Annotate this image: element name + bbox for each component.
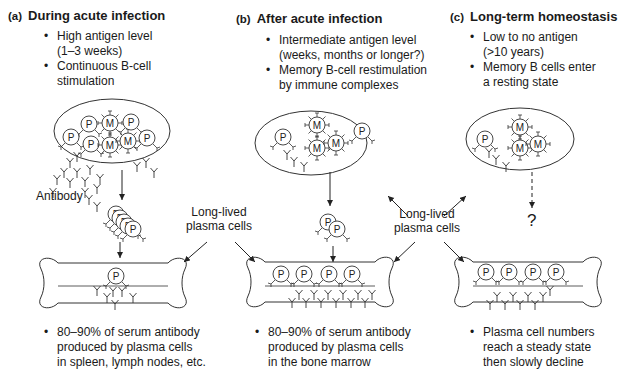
panel-a-footer: 80–90% of serum antibodyproduced by plas… [44,325,206,370]
bullet: Plasma cell numbersreach a steady statet… [470,325,594,370]
antibody-label: Antibody [36,189,83,203]
unknown-outcome-mark: ? [527,211,536,231]
panel-a-lymphoid-organ [54,99,170,163]
panel-a-bone [40,258,187,308]
panel-b-lymphoid-organ [255,111,375,175]
panel-b-plasma-pair [315,214,350,242]
panel-c-lymphoid-organ [466,108,574,172]
long-lived-plasma-label-2: Long-livedplasma cells [394,207,460,235]
bullet: 80–90% of serum antibodyproduced by plas… [255,325,411,370]
panel-b-footer: 80–90% of serum antibodyproduced by plas… [255,325,411,370]
panel-c-footer: Plasma cell numbersreach a steady statet… [470,325,594,370]
long-lived-plasma-label-1: Long-livedplasma cells [186,205,252,233]
panel-b-bone [247,257,394,307]
bullet: 80–90% of serum antibodyproduced by plas… [44,325,206,370]
long-lived-arrows-1 [184,242,255,262]
panel-a-plasma-cell-stack [103,206,146,242]
